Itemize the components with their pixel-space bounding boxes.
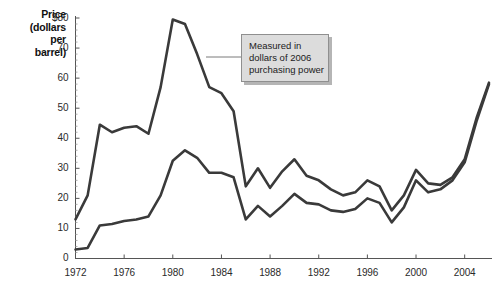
y-axis-tick-label: 70 — [31, 42, 69, 53]
x-axis-tick-label: 1984 — [199, 267, 243, 278]
y-axis-ticks — [75, 18, 80, 259]
x-axis-tick-label: 1976 — [102, 267, 146, 278]
y-axis-tick-label: 20 — [31, 192, 69, 203]
callout-line-2: dollars of 2006 — [249, 52, 322, 64]
callout-line-3: purchasing power — [249, 64, 322, 76]
y-axis-tick-label: 30 — [31, 162, 69, 173]
x-axis-tick-label: 1988 — [248, 267, 292, 278]
x-axis-tick-label: 2000 — [394, 267, 438, 278]
y-axis-tick-label: 0 — [31, 252, 69, 263]
purchasing-power-callout: Measured in dollars of 2006 purchasing p… — [241, 34, 329, 82]
x-axis-tick-label: 2004 — [443, 267, 487, 278]
series-line-nominal-price — [76, 84, 490, 249]
y-axis-tick-label: 40 — [31, 132, 69, 143]
y-axis-tick-label: 60 — [31, 72, 69, 83]
x-axis-tick-label: 1996 — [345, 267, 389, 278]
y-axis-tick-label: 50 — [31, 102, 69, 113]
y-axis-tick-label: 10 — [31, 222, 69, 233]
x-axis-tick-label: 1992 — [297, 267, 341, 278]
x-axis-tick-label: 1972 — [54, 267, 98, 278]
callout-line-1: Measured in — [249, 40, 322, 52]
x-axis-tick-label: 1980 — [151, 267, 195, 278]
oil-price-line-chart: Price (dollars per barrel) $807060504030… — [0, 0, 504, 297]
y-axis-tick-label: $80 — [31, 12, 69, 23]
